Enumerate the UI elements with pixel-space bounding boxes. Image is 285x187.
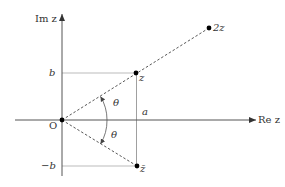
point-z-conjugate xyxy=(135,164,140,169)
complex-plane-diagram xyxy=(0,0,285,187)
point-z-label: z xyxy=(139,73,144,83)
point-z-conjugate-label: z̄ xyxy=(140,164,145,174)
angle-label-lower: θ xyxy=(111,130,117,140)
origin-label: O xyxy=(49,121,57,131)
tick-label-neg-b: −b xyxy=(41,161,56,171)
point-2z-label: 2z xyxy=(213,23,225,33)
point-origin xyxy=(60,118,65,123)
real-axis-label: Re z xyxy=(258,115,280,125)
angle-arc-lower xyxy=(101,120,108,144)
point-2z xyxy=(207,26,212,31)
ray-origin-to-z-conjugate xyxy=(62,120,137,166)
tick-label-a: a xyxy=(142,107,148,117)
angle-label-upper: θ xyxy=(113,98,119,108)
tick-label-b: b xyxy=(49,68,55,78)
angle-arc-upper xyxy=(101,97,108,121)
point-z xyxy=(134,71,139,76)
imaginary-axis-label: Im z xyxy=(35,14,57,24)
